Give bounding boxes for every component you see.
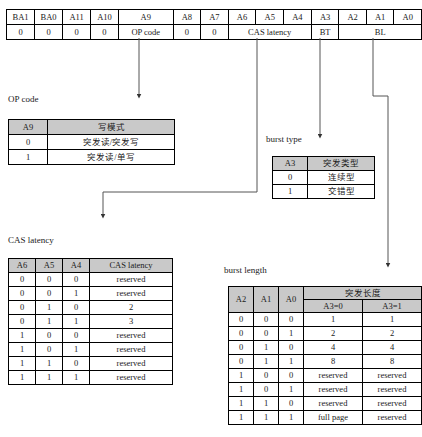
cas-r6-a5: 1 — [36, 357, 63, 371]
cas-r1-value: reserved — [90, 287, 173, 301]
burst-type-r0-bit: 0 — [273, 171, 308, 185]
bl-r5-a1: 0 — [254, 383, 279, 397]
burst-type-r1-type: 交错型 — [308, 185, 375, 199]
table-header-row: A6 A5 A4 CAS latency — [9, 259, 173, 273]
bit-label-a9: A9 — [118, 10, 173, 25]
field-bt: BT — [311, 25, 339, 40]
cas-r4-value: reserved — [90, 329, 173, 343]
field-ba1: 0 — [7, 25, 35, 40]
bl-r2-a1: 1 — [254, 341, 279, 355]
cas-r6-a4: 0 — [63, 357, 90, 371]
cas-header-a4: A4 — [63, 259, 90, 273]
table-row: 0 0 0 reserved — [9, 273, 173, 287]
op-code-caption: OP code — [8, 95, 38, 104]
burst-length-table: A2 A1 A0 突发长度 A3=0 A3=1 0 0 0 1 1 0 0 1 … — [228, 286, 422, 425]
table-row: 1 0 0 reserved reserved — [229, 369, 422, 383]
bl-r4-a1: 0 — [254, 369, 279, 383]
bl-r2-int: 4 — [363, 341, 422, 355]
burst-type-r0-type: 连续型 — [308, 171, 375, 185]
bl-r3-a1: 1 — [254, 355, 279, 369]
table-header-row-top: A2 A1 A0 突发长度 — [229, 287, 422, 300]
cas-latency-table: A6 A5 A4 CAS latency 0 0 0 reserved 0 0 … — [8, 258, 173, 385]
cas-r0-a5: 0 — [36, 273, 63, 287]
register-bit-label-row: BA1 BA0 A11 A10 A9 A8 A7 A6 A5 A4 A3 A2 … — [7, 10, 422, 25]
cas-header-a6: A6 — [9, 259, 36, 273]
bl-header-group: 突发长度 — [304, 287, 422, 300]
cas-r5-value: reserved — [90, 343, 173, 357]
bl-r0-a1: 0 — [254, 313, 279, 327]
bit-label-a10: A10 — [91, 10, 119, 25]
bit-label-a7: A7 — [201, 10, 229, 25]
bl-r3-a0: 1 — [279, 355, 304, 369]
op-code-header-a9: A9 — [9, 120, 48, 135]
bl-r4-seq: reserved — [304, 369, 363, 383]
cas-latency-caption: CAS latency — [8, 236, 54, 245]
bl-r7-a2: 1 — [229, 411, 254, 425]
bl-r2-seq: 4 — [304, 341, 363, 355]
bl-r1-a1: 0 — [254, 327, 279, 341]
bl-header-a0: A0 — [279, 287, 304, 313]
wire-bl-to-burst-length — [373, 38, 388, 265]
burst-type-caption: burst type — [266, 135, 302, 144]
cas-r1-a5: 0 — [36, 287, 63, 301]
bl-r7-a0: 1 — [279, 411, 304, 425]
bl-r6-seq: reserved — [304, 397, 363, 411]
table-row: 0 连续型 — [273, 171, 375, 185]
cas-r7-value: reserved — [90, 371, 173, 385]
cas-r6-a6: 1 — [9, 357, 36, 371]
bl-r0-int: 1 — [363, 313, 422, 327]
bit-label-a6: A6 — [228, 10, 256, 25]
bl-r4-a0: 0 — [279, 369, 304, 383]
mode-register-bit-map: BA1 BA0 A11 A10 A9 A8 A7 A6 A5 A4 A3 A2 … — [6, 9, 422, 40]
bit-label-a4: A4 — [284, 10, 312, 25]
table-row: 0 突发读/突发写 — [9, 135, 175, 150]
bit-label-a5: A5 — [256, 10, 284, 25]
table-row: 0 1 1 8 8 — [229, 355, 422, 369]
table-row: 0 1 1 3 — [9, 315, 173, 329]
table-row: 1 0 0 reserved — [9, 329, 173, 343]
bl-r5-a2: 1 — [229, 383, 254, 397]
bl-r5-a0: 1 — [279, 383, 304, 397]
bl-r5-int: reserved — [363, 383, 422, 397]
bl-r0-a0: 0 — [279, 313, 304, 327]
bl-r1-int: 2 — [363, 327, 422, 341]
bl-r1-a2: 0 — [229, 327, 254, 341]
burst-length-caption: burst length — [224, 266, 267, 275]
bl-r6-int: reserved — [363, 397, 422, 411]
cas-r5-a6: 1 — [9, 343, 36, 357]
table-row: 1 1 1 reserved — [9, 371, 173, 385]
bl-r4-int: reserved — [363, 369, 422, 383]
cas-r0-a6: 0 — [9, 273, 36, 287]
bl-r0-a2: 0 — [229, 313, 254, 327]
bl-r1-seq: 2 — [304, 327, 363, 341]
bl-r1-a0: 1 — [279, 327, 304, 341]
field-ba0: 0 — [35, 25, 63, 40]
bit-label-a0: A0 — [394, 10, 422, 25]
cas-r3-a5: 1 — [36, 315, 63, 329]
bl-subheader-a3-0: A3=0 — [304, 300, 363, 313]
bl-r7-int: reserved — [363, 411, 422, 425]
op-code-table: A9 写模式 0 突发读/突发写 1 突发读/单写 — [8, 119, 175, 165]
field-a7: 0 — [201, 25, 229, 40]
bl-header-a1: A1 — [254, 287, 279, 313]
bl-r2-a2: 0 — [229, 341, 254, 355]
table-row: 1 1 1 full page reserved — [229, 411, 422, 425]
cas-r1-a4: 1 — [63, 287, 90, 301]
cas-r3-a4: 1 — [63, 315, 90, 329]
bl-r5-seq: reserved — [304, 383, 363, 397]
cas-r3-value: 3 — [90, 315, 173, 329]
bit-label-a11: A11 — [63, 10, 91, 25]
table-row: 0 1 0 2 — [9, 301, 173, 315]
table-row: 1 0 1 reserved — [9, 343, 173, 357]
bl-header-a2: A2 — [229, 287, 254, 313]
op-code-r1-mode: 突发读/单写 — [48, 150, 175, 165]
cas-r2-a6: 0 — [9, 301, 36, 315]
table-row: 1 0 1 reserved reserved — [229, 383, 422, 397]
bit-label-ba0: BA0 — [35, 10, 63, 25]
table-row: 0 1 0 4 4 — [229, 341, 422, 355]
field-op-code: OP code — [118, 25, 173, 40]
cas-r7-a6: 1 — [9, 371, 36, 385]
table-row: 1 1 0 reserved — [9, 357, 173, 371]
burst-type-header-a3: A3 — [273, 157, 308, 171]
table-row: 1 突发读/单写 — [9, 150, 175, 165]
